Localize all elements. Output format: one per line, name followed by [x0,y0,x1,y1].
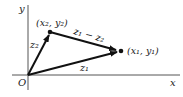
point-z1 [119,49,124,54]
vector-diff-label: z₁ − z₂ [72,25,107,44]
vector-diagram: y x O (x₂, y₂) (x₁, y₁) z₂ z₁ z₁ − z₂ [0,0,183,97]
point-z1-label: (x₁, y₁) [127,45,159,56]
vector-z1-label: z₁ [79,62,89,73]
point-z2-label: (x₂, y₂) [36,17,68,28]
vector-z1 [28,52,117,75]
origin-label: O [18,77,26,88]
point-z2 [48,30,53,35]
x-axis-label: x [170,77,176,88]
vector-z2-label: z₂ [29,39,39,50]
y-axis-label: y [18,3,25,14]
